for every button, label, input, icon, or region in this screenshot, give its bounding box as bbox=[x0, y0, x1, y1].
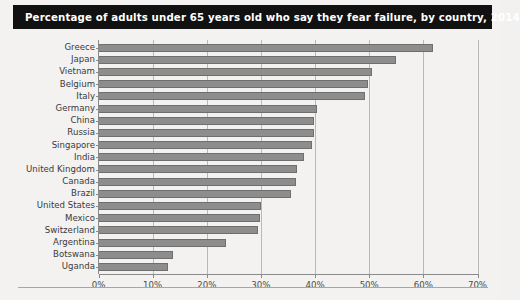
category-label: United States bbox=[0, 199, 95, 211]
bar bbox=[99, 214, 261, 222]
bar bbox=[99, 68, 372, 76]
category-label: Belgium bbox=[0, 78, 95, 90]
page-title: Percentage of adults under 65 years old … bbox=[25, 12, 520, 23]
bar bbox=[99, 263, 169, 271]
bar bbox=[99, 190, 292, 198]
category-label: Vietnam bbox=[0, 65, 95, 77]
bar bbox=[99, 178, 296, 186]
x-tick-label: 40% bbox=[295, 280, 335, 290]
bar bbox=[99, 56, 397, 64]
x-tick bbox=[315, 274, 316, 278]
bar bbox=[99, 165, 298, 173]
y-axis-spine bbox=[98, 40, 99, 274]
category-label: Germany bbox=[0, 102, 95, 114]
x-tick bbox=[153, 274, 154, 278]
bar-rows: GreeceJapanVietnamBelgiumItalyGermanyChi… bbox=[0, 42, 501, 274]
category-label: Italy bbox=[0, 90, 95, 102]
x-tick bbox=[261, 274, 262, 278]
x-tick-label: 60% bbox=[403, 280, 443, 290]
bar bbox=[99, 239, 227, 247]
bar bbox=[99, 153, 305, 161]
category-label: Mexico bbox=[0, 212, 95, 224]
bar bbox=[99, 251, 173, 259]
x-tick bbox=[423, 274, 424, 278]
bar bbox=[99, 80, 368, 88]
x-tick bbox=[99, 274, 100, 278]
plot-area: GreeceJapanVietnamBelgiumItalyGermanyChi… bbox=[0, 40, 501, 290]
category-label: Switzerland bbox=[0, 224, 95, 236]
x-tick-label: 70% bbox=[458, 280, 498, 290]
category-label: United Kingdom bbox=[0, 163, 95, 175]
x-tick bbox=[369, 274, 370, 278]
x-tick-label: 30% bbox=[241, 280, 281, 290]
category-label: Russia bbox=[0, 126, 95, 138]
bottom-divider bbox=[18, 287, 488, 288]
category-label: Uganda bbox=[0, 260, 95, 272]
bar bbox=[99, 117, 314, 125]
category-label: India bbox=[0, 151, 95, 163]
bar bbox=[99, 129, 314, 137]
category-label: Argentina bbox=[0, 236, 95, 248]
x-tick-label: 50% bbox=[349, 280, 389, 290]
bar bbox=[99, 202, 262, 210]
bar bbox=[99, 105, 317, 113]
category-label: China bbox=[0, 114, 95, 126]
bar bbox=[99, 226, 258, 234]
category-label: Canada bbox=[0, 175, 95, 187]
category-label: Greece bbox=[0, 41, 95, 53]
x-tick-label: 0% bbox=[79, 280, 119, 290]
category-label: Japan bbox=[0, 53, 95, 65]
bar bbox=[99, 141, 312, 149]
bar bbox=[99, 92, 365, 100]
category-label: Singapore bbox=[0, 139, 95, 151]
bar-row: Uganda bbox=[0, 261, 501, 273]
x-tick-label: 10% bbox=[133, 280, 173, 290]
bar bbox=[99, 44, 433, 52]
chart-title-bar: Percentage of adults under 65 years old … bbox=[13, 5, 492, 29]
x-tick-label: 20% bbox=[187, 280, 227, 290]
x-axis-line bbox=[99, 274, 478, 275]
x-tick bbox=[207, 274, 208, 278]
x-tick bbox=[478, 274, 479, 278]
category-label: Brazil bbox=[0, 187, 95, 199]
category-label: Botswana bbox=[0, 248, 95, 260]
